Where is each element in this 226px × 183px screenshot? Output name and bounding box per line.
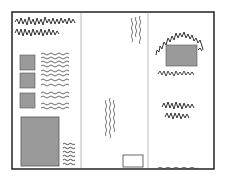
- right-image: [166, 45, 197, 66]
- image-square-3: [20, 93, 35, 108]
- empty-box: [123, 155, 143, 167]
- image-square-1: [20, 55, 35, 70]
- large-image: [21, 117, 59, 166]
- brochure-diagram: [0, 0, 226, 183]
- image-square-2: [20, 73, 35, 88]
